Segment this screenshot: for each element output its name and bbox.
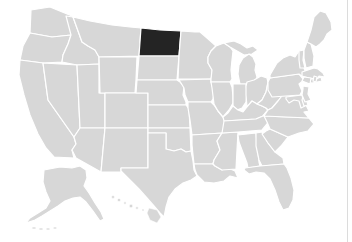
aleutian-island <box>46 228 50 230</box>
state-alaska <box>26 166 104 230</box>
state-south-dakota <box>137 56 179 80</box>
aleutian-island <box>39 228 43 230</box>
state-kansas <box>148 105 190 128</box>
state-new-hampshire <box>304 42 314 68</box>
state-alaska-mainland <box>26 166 104 223</box>
hawaii-island <box>124 202 126 204</box>
state-washington <box>30 7 72 37</box>
state-connecticut <box>302 77 311 84</box>
right-frame-line <box>347 0 348 242</box>
state-indiana <box>233 84 247 110</box>
aleutian-island <box>32 227 36 229</box>
state-rhode-island <box>313 76 317 82</box>
map-viewport <box>0 0 352 242</box>
state-florida <box>244 164 294 210</box>
hawaii-island <box>136 207 139 210</box>
usa-states-map <box>0 0 352 242</box>
state-colorado <box>105 93 148 128</box>
state-maine <box>307 11 332 47</box>
hawaii-island <box>129 204 133 208</box>
state-new-jersey <box>302 86 311 102</box>
hawaii-island <box>117 198 120 201</box>
hawaii-island <box>112 196 115 199</box>
aleutian-island <box>53 227 57 229</box>
state-arizona <box>72 128 105 172</box>
state-wyoming <box>99 57 137 93</box>
state-north-dakota-highlighted <box>139 28 181 56</box>
state-new-mexico <box>101 128 148 172</box>
hawaii-island <box>142 209 144 211</box>
